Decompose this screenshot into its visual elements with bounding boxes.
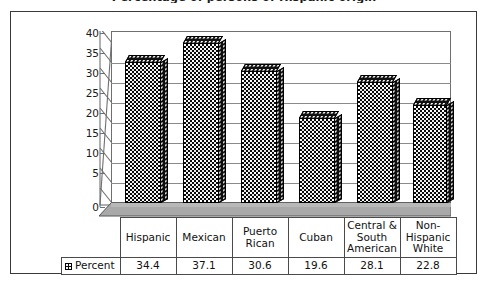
y-tick-label: 10 [86,148,99,159]
bar-front-face [125,62,161,203]
legend-series-label: Percent [75,259,115,271]
category-label: White [413,242,444,254]
bar-puerto-rican [241,64,277,203]
bar-hispanic [125,55,161,203]
y-tick-label: 20 [86,108,99,119]
bar-front-face [183,43,219,203]
chart-screenshot: Percentage of persons of Hispanic origin… [0,0,488,285]
bar-front-face [413,105,447,203]
bar-cuban [299,111,335,203]
plot-area [99,31,451,217]
bar-non-hispanic-white [413,98,447,203]
chart-title: Percentage of persons of Hispanic origin [0,0,488,3]
y-tick-label: 0 [92,202,99,213]
category-label: Hispanic [126,231,171,243]
chart-outer-frame: 40 35 30 25 20 15 10 5 0 [10,11,477,274]
category-label: Cuban [299,231,333,243]
bar-top-face [413,98,451,105]
y-tick-label: 15 [86,128,99,139]
bar-top-face [183,36,223,43]
category-label: South [357,231,388,243]
bar-top-face [299,111,339,118]
bar-central-south-american [357,75,393,203]
chart-data-table: Hispanic Mexican Puerto Rican Cuban Cent… [61,217,457,275]
table-row-categories: Hispanic Mexican Puerto Rican Cuban Cent… [62,218,457,258]
category-header-cell: Non- Hispanic White [400,218,456,258]
bars-layer [99,31,451,217]
value-cell: 22.8 [400,258,456,275]
value-cell: 28.1 [344,258,400,275]
category-label: American [347,242,397,254]
category-header-cell: Central & South American [344,218,400,258]
table-row-values: Percent 34.4 37.1 30.6 19.6 28.1 22.8 [62,258,457,275]
bar-side-face [219,39,226,203]
series-swatch-icon [65,263,72,270]
table-corner-cell [62,218,121,258]
value-cell: 34.4 [120,258,176,275]
category-label: Central & [347,219,397,231]
legend-series-cell: Percent [62,258,121,275]
bar-front-face [357,82,393,203]
bar-front-face [241,71,277,203]
bar-front-face [299,118,335,203]
value-cell: 30.6 [232,258,288,275]
y-tick-label: 5 [92,168,99,179]
bar-side-face [161,58,168,203]
category-label: Rican [245,237,274,249]
bar-mexican [183,36,219,203]
category-label: Hispanic [406,231,451,243]
category-header-cell: Cuban [288,218,344,258]
y-tick-label: 25 [86,88,99,99]
category-header-cell: Mexican [176,218,232,258]
bar-side-face [447,101,454,203]
category-header-cell: Hispanic [120,218,176,258]
bar-top-face [357,75,397,82]
category-header-cell: Puerto Rican [232,218,288,258]
y-tick-label: 40 [86,28,99,39]
category-label: Non- [416,219,441,231]
bar-top-face [241,64,281,71]
bar-top-face [125,55,165,62]
value-cell: 37.1 [176,258,232,275]
bar-side-face [393,78,400,203]
category-label: Mexican [182,231,225,243]
value-cell: 19.6 [288,258,344,275]
bar-side-face [277,67,284,203]
category-label: Puerto [243,225,277,237]
y-tick-label: 35 [86,48,99,59]
bar-side-face [335,114,342,203]
y-tick-label: 30 [86,68,99,79]
